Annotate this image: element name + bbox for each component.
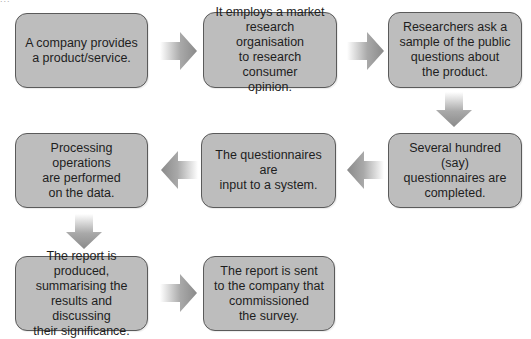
step-1-box: A company provides a product/service. [15,13,148,88]
step-8-box: The report is sent to the company that c… [203,256,335,331]
step-2-box: It employs a market research organisatio… [203,12,337,88]
step-7-box: The report is produced, summarising the … [15,256,148,331]
step-5-text: The questionnaires are input to a system… [208,148,329,193]
arrow-down-icon [66,214,102,250]
arrow-left-icon [160,151,198,189]
arrow-right-icon [347,32,385,70]
arrow-right-icon [160,32,198,70]
step-8-text: The report is sent to the company that c… [214,264,324,324]
corner-caption-fragment: ... [0,0,11,4]
step-4-box: Several hundred (say) questionnaires are… [388,133,522,208]
step-6-text: Processing operations are performed on t… [22,141,141,201]
step-2-text: It employs a market research organisatio… [210,5,330,95]
arrow-right-icon [160,274,198,312]
step-3-box: Researchers ask a sample of the public q… [388,12,522,88]
step-5-box: The questionnaires are input to a system… [201,133,336,208]
step-6-box: Processing operations are performed on t… [15,133,148,208]
step-4-text: Several hundred (say) questionnaires are… [395,141,515,201]
step-7-text: The report is produced, summarising the … [22,249,141,339]
arrow-down-icon [436,92,472,128]
step-3-text: Researchers ask a sample of the public q… [399,20,510,80]
step-1-text: A company provides a product/service. [25,36,138,66]
arrow-left-icon [346,151,384,189]
